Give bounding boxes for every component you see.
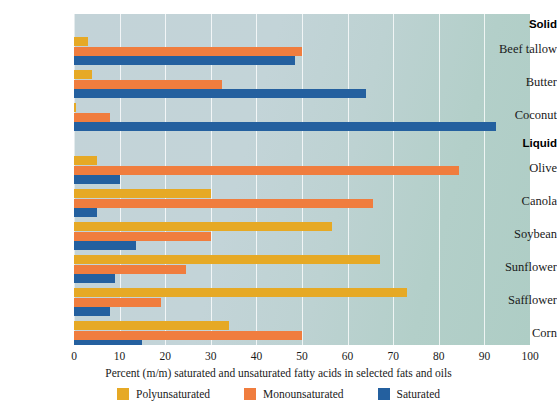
bar-canola-polyunsaturated bbox=[74, 189, 211, 198]
x-tick-80: 80 bbox=[419, 350, 459, 362]
category-label-soybean: Soybean bbox=[487, 228, 557, 241]
category-label-sunflower: Sunflower bbox=[487, 261, 557, 274]
legend-label-saturated: Saturated bbox=[397, 388, 440, 400]
bar-soybean-polyunsaturated bbox=[74, 222, 332, 231]
legend-swatch-saturated bbox=[378, 388, 390, 400]
bar-olive-monounsaturated bbox=[74, 166, 459, 175]
x-tick-10: 10 bbox=[100, 350, 140, 362]
x-tick-30: 30 bbox=[191, 350, 231, 362]
category-label-coconut: Coconut bbox=[487, 109, 557, 122]
legend-swatch-polyunsaturated bbox=[117, 388, 129, 400]
x-tick-90: 90 bbox=[464, 350, 504, 362]
bar-canola-saturated bbox=[74, 208, 97, 217]
x-tick-40: 40 bbox=[236, 350, 276, 362]
bar-coconut-saturated bbox=[74, 122, 496, 131]
gridline-80 bbox=[439, 14, 440, 345]
fatty-acid-composition-chart: SolidBeef tallowButterCoconutLiquidOlive… bbox=[0, 0, 557, 410]
category-label-olive: Olive bbox=[487, 162, 557, 175]
bar-beef-tallow-saturated bbox=[74, 56, 295, 65]
x-tick-20: 20 bbox=[145, 350, 185, 362]
x-tick-50: 50 bbox=[282, 350, 322, 362]
bar-beef-tallow-polyunsaturated bbox=[74, 37, 88, 46]
x-axis-title: Percent (m/m) saturated and unsaturated … bbox=[0, 367, 557, 379]
x-tick-60: 60 bbox=[328, 350, 368, 362]
bar-corn-polyunsaturated bbox=[74, 321, 229, 330]
bar-sunflower-polyunsaturated bbox=[74, 255, 380, 264]
legend-swatch-monounsaturated bbox=[244, 388, 256, 400]
legend-label-polyunsaturated: Polyunsaturated bbox=[136, 388, 210, 400]
category-label-canola: Canola bbox=[487, 195, 557, 208]
bar-coconut-polyunsaturated bbox=[74, 103, 76, 112]
category-label-butter: Butter bbox=[487, 76, 557, 89]
legend-item-saturated: Saturated bbox=[378, 388, 440, 400]
bar-olive-saturated bbox=[74, 175, 120, 184]
x-tick-0: 0 bbox=[54, 350, 94, 362]
bar-safflower-polyunsaturated bbox=[74, 288, 407, 297]
legend-label-monounsaturated: Monounsaturated bbox=[263, 388, 343, 400]
bar-coconut-monounsaturated bbox=[74, 113, 110, 122]
category-label-corn: Corn bbox=[487, 327, 557, 340]
bar-canola-monounsaturated bbox=[74, 199, 373, 208]
bar-corn-saturated bbox=[74, 340, 142, 345]
x-tick-100: 100 bbox=[510, 350, 550, 362]
category-label-beef-tallow: Beef tallow bbox=[487, 43, 557, 56]
bar-soybean-monounsaturated bbox=[74, 232, 211, 241]
bar-safflower-monounsaturated bbox=[74, 298, 161, 307]
group-header-solid: Solid bbox=[487, 18, 557, 30]
bar-soybean-saturated bbox=[74, 241, 136, 250]
group-header-liquid: Liquid bbox=[487, 137, 557, 149]
bar-olive-polyunsaturated bbox=[74, 156, 97, 165]
bar-beef-tallow-monounsaturated bbox=[74, 47, 302, 56]
bar-butter-monounsaturated bbox=[74, 80, 222, 89]
plot-area bbox=[74, 14, 530, 345]
bar-safflower-saturated bbox=[74, 307, 110, 316]
bar-butter-saturated bbox=[74, 89, 366, 98]
x-tick-70: 70 bbox=[373, 350, 413, 362]
bar-corn-monounsaturated bbox=[74, 331, 302, 340]
bar-sunflower-monounsaturated bbox=[74, 265, 186, 274]
bar-butter-polyunsaturated bbox=[74, 70, 92, 79]
legend-item-polyunsaturated: Polyunsaturated bbox=[117, 388, 210, 400]
chart-legend: PolyunsaturatedMonounsaturatedSaturated bbox=[0, 388, 557, 400]
category-label-safflower: Safflower bbox=[487, 294, 557, 307]
legend-item-monounsaturated: Monounsaturated bbox=[244, 388, 343, 400]
gridline-90 bbox=[484, 14, 485, 345]
bar-sunflower-saturated bbox=[74, 274, 115, 283]
